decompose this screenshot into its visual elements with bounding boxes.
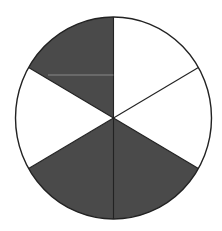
fraction-circle-diagram (0, 0, 222, 231)
